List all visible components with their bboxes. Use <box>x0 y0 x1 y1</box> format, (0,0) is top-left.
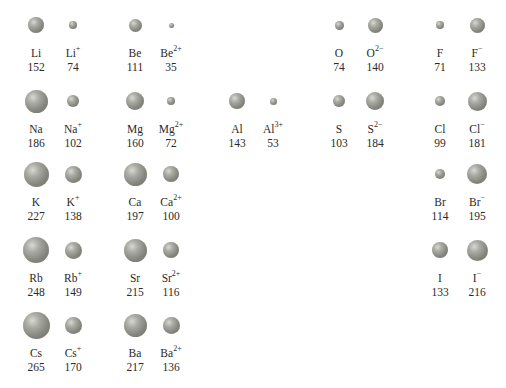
radius-value: 116 <box>151 286 191 298</box>
symbol-text: Ca <box>129 196 142 208</box>
radius-value: 103 <box>319 137 359 149</box>
atom-sphere-icon <box>67 95 79 107</box>
symbol-text: Rb <box>29 272 42 284</box>
atom-sphere-icon <box>270 98 277 105</box>
atom-sphere-icon <box>163 317 180 334</box>
ion-charge: 2+ <box>173 193 182 202</box>
element-symbol: Na <box>16 123 56 135</box>
symbol-text: Be <box>160 47 173 59</box>
element-symbol: Sr2+ <box>151 272 191 284</box>
symbol-text: Ca <box>160 196 173 208</box>
ion-charge: + <box>77 269 82 278</box>
atom-sphere-icon <box>23 237 49 263</box>
radius-value: 133 <box>420 286 460 298</box>
symbol-text: Mg <box>127 123 143 135</box>
radius-value: 170 <box>53 361 93 373</box>
symbol-text: K <box>67 196 75 208</box>
radius-value: 35 <box>151 61 191 73</box>
radius-value: 149 <box>53 286 93 298</box>
element-symbol: Cs <box>16 347 56 359</box>
radius-value: 195 <box>457 210 497 222</box>
radius-value: 140 <box>355 61 395 73</box>
symbol-text: Be <box>129 47 142 59</box>
radius-value: 102 <box>53 137 93 149</box>
radius-value: 215 <box>115 286 155 298</box>
atom-sphere-icon <box>467 240 488 261</box>
symbol-text: Sr <box>162 272 172 284</box>
element-symbol: Cs+ <box>53 347 93 359</box>
ion-charge: + <box>77 120 82 129</box>
symbol-text: S <box>336 123 342 135</box>
atom-sphere-icon <box>167 97 175 105</box>
element-symbol: Cl <box>420 123 460 135</box>
element-symbol: Ca <box>115 196 155 208</box>
symbol-text: Ba <box>160 347 173 359</box>
symbol-text: Cl <box>469 123 480 135</box>
radius-value: 248 <box>16 286 56 298</box>
radius-value: 74 <box>53 61 93 73</box>
atom-sphere-icon <box>23 312 50 339</box>
symbol-text: Li <box>66 47 76 59</box>
atom-sphere-icon <box>129 19 142 32</box>
element-symbol: S <box>319 123 359 135</box>
radius-value: 99 <box>420 137 460 149</box>
ion-charge: + <box>76 44 81 53</box>
atom-sphere-icon <box>432 242 448 258</box>
radius-value: 186 <box>16 137 56 149</box>
radius-value: 71 <box>420 61 460 73</box>
element-symbol: I <box>420 272 460 284</box>
atom-sphere-icon <box>163 242 179 258</box>
atom-sphere-icon <box>366 92 384 110</box>
ion-charge: − <box>480 193 485 202</box>
element-symbol: F <box>420 47 460 59</box>
symbol-text: Li <box>31 47 41 59</box>
element-symbol: Al <box>217 123 257 135</box>
radius-value: 133 <box>457 61 497 73</box>
atom-sphere-icon <box>65 317 82 334</box>
atom-sphere-icon <box>435 96 445 106</box>
symbol-text: Cs <box>65 347 77 359</box>
atom-sphere-icon <box>124 163 147 186</box>
ion-charge: 2− <box>375 44 384 53</box>
symbol-text: Cl <box>435 123 446 135</box>
element-symbol: K <box>16 196 56 208</box>
symbol-text: O <box>335 47 343 59</box>
radius-value: 136 <box>151 361 191 373</box>
radius-value: 197 <box>115 210 155 222</box>
element-symbol: Rb <box>16 272 56 284</box>
element-symbol: Na+ <box>53 123 93 135</box>
ion-charge: 2− <box>374 120 383 129</box>
atom-sphere-icon <box>126 92 144 110</box>
symbol-text: K <box>32 196 40 208</box>
radius-value: 216 <box>457 286 497 298</box>
element-symbol: Mg <box>115 123 155 135</box>
element-symbol: Ba <box>115 347 155 359</box>
element-symbol: Cl− <box>457 123 497 135</box>
symbol-text: Br <box>434 196 446 208</box>
symbol-text: I <box>438 272 442 284</box>
ion-charge: 2+ <box>172 269 181 278</box>
element-symbol: Mg2+ <box>151 123 191 135</box>
element-symbol: Rb+ <box>53 272 93 284</box>
ion-charge: − <box>480 120 485 129</box>
radius-value: 74 <box>319 61 359 73</box>
atom-sphere-icon <box>470 18 485 33</box>
element-symbol: Br <box>420 196 460 208</box>
atom-sphere-icon <box>335 21 344 30</box>
radius-value: 138 <box>53 210 93 222</box>
ion-charge: 2+ <box>173 344 182 353</box>
radius-value: 184 <box>355 137 395 149</box>
symbol-text: O <box>367 47 375 59</box>
symbol-text: Sr <box>130 272 140 284</box>
atom-sphere-icon <box>229 93 245 109</box>
element-symbol: Sr <box>115 272 155 284</box>
symbol-text: Rb <box>64 272 77 284</box>
atom-sphere-icon <box>65 166 82 183</box>
symbol-text: Mg <box>159 123 175 135</box>
atom-sphere-icon <box>124 239 147 262</box>
symbol-text: S <box>368 123 374 135</box>
element-symbol: Li <box>16 47 56 59</box>
element-symbol: Ca2+ <box>151 196 191 208</box>
ion-charge: − <box>477 269 482 278</box>
radius-value: 100 <box>151 210 191 222</box>
